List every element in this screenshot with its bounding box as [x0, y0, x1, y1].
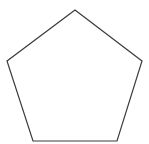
diagram-canvas: [0, 0, 149, 144]
pentagon-diagram: [0, 0, 149, 144]
pentagon-shape: [7, 10, 142, 141]
